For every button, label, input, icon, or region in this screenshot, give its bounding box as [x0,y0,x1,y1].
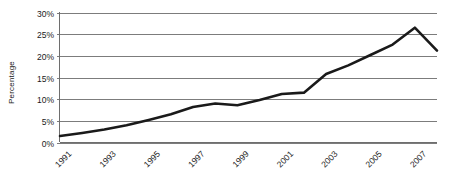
data-series-group [60,28,437,136]
y-axis-tick-label: 5% [42,117,55,127]
data-series-line [60,28,437,136]
y-axis-tick-label: 20% [37,52,54,62]
x-axis-tick-label: 1995 [142,149,163,170]
x-axis-tick-label: 1993 [97,149,118,170]
x-axis-tick-label: 2003 [319,149,340,170]
x-axis-tick-label: 1997 [186,149,207,170]
gridlines-group [57,14,437,144]
x-axis-tick-label: 2005 [363,149,384,170]
line-chart-figure: Percentage 0%5%10%15%20%25%30% 199119931… [0,0,452,185]
x-axis-tick-label: 1999 [230,149,251,170]
x-axis-tick-labels: 199119931995199719992001200320052007 [53,149,428,170]
y-axis-tick-labels: 0%5%10%15%20%25%30% [37,9,54,149]
x-axis-tick-label: 2001 [275,149,296,170]
x-axis-tick-label: 1991 [53,149,74,170]
y-axis-tick-label: 10% [37,95,54,105]
y-axis-tick-label: 15% [37,74,54,84]
x-axis-tick-label: 2007 [408,149,429,170]
y-axis-tick-label: 0% [42,139,55,149]
plot-area: 0%5%10%15%20%25%30% 19911993199519971999… [0,0,452,185]
y-axis-tick-label: 30% [37,9,54,19]
y-axis-tick-label: 25% [37,30,54,40]
